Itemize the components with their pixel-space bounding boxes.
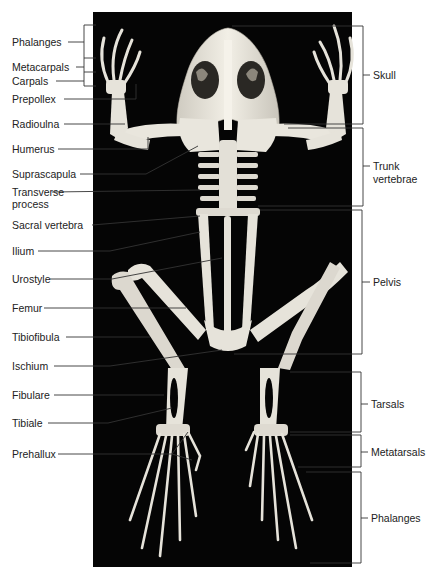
vertebral-column — [196, 140, 260, 216]
label-transverse-process: Transverse — [12, 186, 64, 198]
label-phalanges-foot: Phalanges — [371, 512, 421, 524]
label-suprascapula: Suprascapula — [12, 168, 76, 180]
label-metacarpals: Metacarpals — [12, 61, 69, 73]
label-tarsals: Tarsals — [371, 398, 404, 410]
label-phalanges-hand: Phalanges — [12, 36, 62, 48]
frog-skeleton-diagram: Phalanges Metacarpals Carpals Prepollex … — [0, 0, 436, 573]
label-ischium: Ischium — [12, 360, 48, 372]
label-transverse-process-line2: process — [12, 198, 49, 210]
label-prepollex: Prepollex — [12, 93, 56, 105]
label-tibiofibula: Tibiofibula — [12, 331, 59, 343]
label-sacral-vertebra: Sacral vertebra — [12, 219, 83, 231]
label-trunk-vertebrae: Trunk — [373, 160, 399, 172]
label-metatarsals: Metatarsals — [371, 446, 425, 458]
label-tibiale: Tibiale — [12, 417, 43, 429]
label-skull: Skull — [373, 69, 396, 81]
skeleton-illustration — [0, 0, 436, 573]
right-hindlimb — [246, 262, 348, 548]
label-pelvis: Pelvis — [373, 276, 401, 288]
label-femur: Femur — [12, 302, 42, 314]
label-ilium: Ilium — [12, 245, 34, 257]
skull-bone — [177, 28, 279, 130]
label-humerus: Humerus — [12, 143, 55, 155]
label-radioulna: Radioulna — [12, 118, 59, 130]
label-urostyle: Urostyle — [12, 273, 51, 285]
label-carpals: Carpals — [12, 75, 48, 87]
pelvis-bones — [198, 214, 258, 351]
label-prehallux: Prehallux — [12, 448, 56, 460]
label-trunk-vertebrae-line2: vertebrae — [373, 173, 417, 185]
label-fibulare: Fibulare — [12, 389, 50, 401]
